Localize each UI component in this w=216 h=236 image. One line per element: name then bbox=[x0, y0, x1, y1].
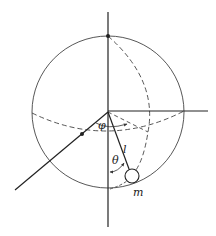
length-label: l bbox=[123, 143, 127, 156]
meridian-dashed bbox=[108, 36, 150, 170]
diagonal-axis bbox=[15, 112, 108, 190]
theta-label: θ bbox=[112, 154, 119, 167]
phi-label: φ bbox=[98, 119, 106, 132]
pendulum-bob bbox=[125, 169, 139, 183]
equator-axis-dot bbox=[80, 132, 84, 136]
mass-label: m bbox=[133, 186, 143, 199]
north-pole-dot bbox=[106, 34, 110, 38]
spherical-pendulum-diagram: φ l θ m bbox=[0, 0, 216, 236]
bottom-arc-dashed bbox=[110, 181, 127, 189]
